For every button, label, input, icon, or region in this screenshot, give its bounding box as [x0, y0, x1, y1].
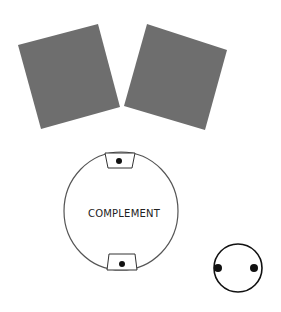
- bottom-tab-dot: [119, 261, 125, 267]
- left-square: [18, 24, 120, 129]
- right-square: [124, 24, 227, 130]
- small-circle-left-dot: [214, 264, 222, 272]
- complement-label: COMPLEMENT: [88, 208, 161, 219]
- diagram-canvas: COMPLEMENT: [0, 0, 281, 312]
- small-circle-right-dot: [250, 264, 258, 272]
- top-tab-dot: [116, 158, 122, 164]
- small-circle: [214, 244, 262, 292]
- complement-circle: COMPLEMENT: [64, 152, 178, 270]
